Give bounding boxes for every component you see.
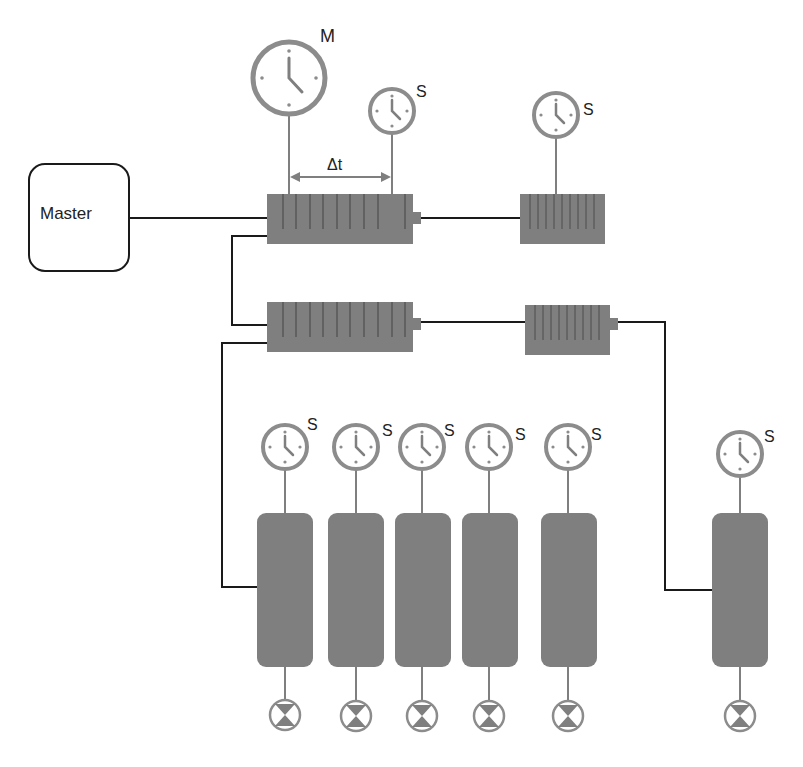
- switch-3: [520, 194, 605, 244]
- clock-icon: [370, 89, 414, 133]
- device-3: S: [395, 422, 455, 731]
- slave-label: S: [416, 83, 427, 100]
- device-1: S: [257, 416, 318, 730]
- delta-t-label: Δt: [327, 156, 343, 173]
- master-clock-label: M: [320, 26, 335, 46]
- hourglass-icon: [725, 701, 755, 731]
- slave-label: S: [515, 426, 526, 443]
- hourglass-icon: [553, 701, 583, 731]
- delta-t-annotation: Δt: [290, 156, 391, 182]
- slave-label: S: [591, 426, 602, 443]
- slave-label: S: [307, 416, 318, 433]
- device-2: S: [328, 422, 393, 731]
- slave-label: S: [382, 422, 393, 439]
- hourglass-icon: [341, 701, 371, 731]
- hourglass-icon: [407, 701, 437, 731]
- hourglass-icon: [474, 701, 504, 731]
- clock-icon: [718, 432, 762, 476]
- slave-label: S: [583, 101, 594, 118]
- clock-icon: [534, 93, 578, 137]
- master-label: Master: [40, 204, 92, 223]
- switch-2: [267, 302, 421, 352]
- slave-clock-switch3: S: [534, 93, 594, 198]
- sync-topology-diagram: Master: [0, 0, 803, 767]
- switch-4: [525, 305, 618, 355]
- clock-icon: [334, 425, 378, 469]
- hourglass-icon: [270, 700, 300, 730]
- slave-label: S: [764, 428, 775, 445]
- device-5: S: [541, 425, 602, 731]
- link-switch1-switch2: [232, 236, 267, 325]
- clock-icon: [546, 425, 590, 469]
- link-switch4-device6: [617, 322, 712, 590]
- clock-icon: [400, 425, 444, 469]
- clock-icon: [253, 42, 325, 114]
- switch-1: [267, 194, 421, 244]
- device-4: S: [462, 425, 526, 731]
- clock-icon: [467, 425, 511, 469]
- device-6: S: [712, 428, 775, 731]
- clock-icon: [263, 425, 307, 469]
- master-node: Master: [29, 164, 129, 271]
- slave-label: S: [444, 422, 455, 439]
